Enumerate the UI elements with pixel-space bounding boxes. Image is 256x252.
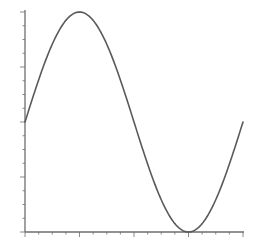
sine-chart: [0, 0, 256, 252]
sine-curve: [25, 12, 243, 232]
x-axis-ticks: [25, 232, 243, 237]
